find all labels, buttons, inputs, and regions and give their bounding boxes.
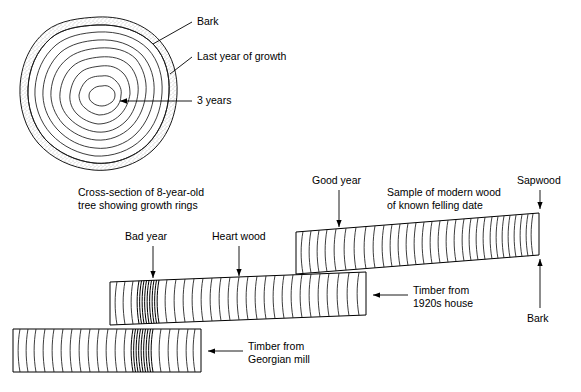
growth-ring-8-pith xyxy=(89,86,115,106)
growth-ring-1 xyxy=(28,25,169,163)
label-bad-year: Bad year xyxy=(125,230,168,242)
modern-wood-title-line2: of known felling date xyxy=(387,199,483,211)
growth-ring-5 xyxy=(60,57,138,132)
tree-cross-section: Bark Last year of growth 3 years Cross-s… xyxy=(20,15,287,211)
bark-leader-line xyxy=(153,22,192,44)
label-heart-wood: Heart wood xyxy=(212,230,266,242)
house-1920s-title-line2: 1920s house xyxy=(413,297,473,309)
label-3-years: 3 years xyxy=(197,94,231,106)
sample-georgian-mill: Timber from Georgian mill xyxy=(13,329,310,372)
modern-wood-title-line1: Sample of modern wood xyxy=(387,186,501,198)
growth-ring-4 xyxy=(51,48,146,140)
label-bark-sample: Bark xyxy=(527,312,549,324)
label-good-year: Good year xyxy=(312,174,362,186)
label-bark-crosssection: Bark xyxy=(197,15,219,27)
dendrochronology-diagram: Bark Last year of growth 3 years Cross-s… xyxy=(0,0,581,392)
georgian-mill-title-line2: Georgian mill xyxy=(248,353,310,365)
crosssection-caption-line2: tree showing growth rings xyxy=(78,199,198,211)
georgian-mill-title-line1: Timber from xyxy=(248,340,304,352)
label-sapwood: Sapwood xyxy=(517,174,561,186)
growth-ring-2 xyxy=(35,32,162,156)
diagram-canvas: Bark Last year of growth 3 years Cross-s… xyxy=(0,0,581,392)
label-last-year-of-growth: Last year of growth xyxy=(197,50,286,62)
house-1920s-title-line1: Timber from xyxy=(413,284,469,296)
crosssection-caption-line1: Cross-section of 8-year-old xyxy=(78,186,204,198)
